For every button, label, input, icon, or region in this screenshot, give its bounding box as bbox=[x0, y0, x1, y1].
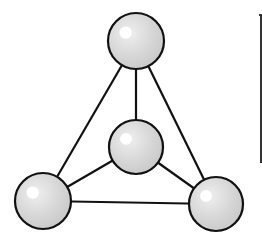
sphere-body bbox=[189, 177, 243, 231]
sphere-body bbox=[108, 13, 164, 69]
tetrahedral-diagram bbox=[0, 0, 262, 242]
sphere-highlight bbox=[200, 190, 212, 202]
atom-bottom-right bbox=[189, 177, 243, 231]
sphere-highlight bbox=[26, 186, 38, 198]
bracket-line bbox=[259, 15, 262, 163]
sphere-highlight bbox=[120, 133, 132, 145]
sphere-highlight bbox=[119, 26, 131, 38]
sphere-body bbox=[15, 173, 71, 229]
atom-top bbox=[108, 13, 164, 69]
sphere-body bbox=[109, 120, 163, 174]
atoms-group bbox=[15, 13, 243, 231]
atom-bottom-left bbox=[15, 173, 71, 229]
atom-center bbox=[109, 120, 163, 174]
